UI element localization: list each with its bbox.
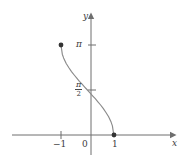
arccos-curve-group [61,45,114,135]
endpoint-dot-left [59,43,64,48]
x-axis-label: x [172,139,177,148]
arccos-plot-figure: y x π π 2 −1 0 1 [0,0,185,166]
y-axis-arrow-icon [88,13,94,20]
y-tick-label-pi-half: π 2 [75,81,82,98]
fraction-pi-over-two: π 2 [75,81,82,98]
plot-canvas [0,0,185,166]
x-tick-label-one: 1 [112,140,118,149]
x-axis-group [12,132,177,138]
y-tick-label-pi: π [76,40,82,49]
fraction-denominator: 2 [75,90,82,98]
arccos-curve [61,45,114,135]
endpoint-dot-right [112,133,117,138]
fraction-numerator: π [75,81,82,89]
y-axis-group [88,13,94,156]
y-axis-label: y [83,12,88,21]
x-tick-label-neg-one: −1 [53,140,66,149]
origin-label: 0 [82,140,88,149]
